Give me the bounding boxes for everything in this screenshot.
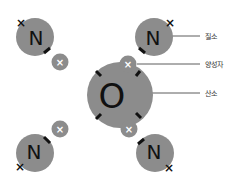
nitrogen-symbol: N [146, 26, 161, 50]
electron-mark-icon: × [16, 16, 26, 30]
molecule-diagram: O × × × × N × N × N × [0, 0, 242, 186]
electron-mark-icon: × [165, 16, 175, 30]
proton-mark-icon: × [125, 124, 133, 135]
nitrogen-atom-top-left: N × [16, 16, 54, 56]
nitrogen-atom-top-right: N × [135, 16, 175, 56]
proton-mark-icon: × [56, 124, 64, 135]
proton-mark-icon: × [56, 57, 64, 68]
oxygen-atom: O [87, 62, 153, 128]
nitrogen-symbol: N [147, 140, 162, 164]
label-oxygen: 산소 [205, 89, 218, 98]
nitrogen-symbol: N [29, 26, 44, 50]
electron-mark-icon: × [15, 160, 25, 174]
proton-bottom-right: × [121, 121, 138, 138]
nitrogen-atom-bottom-right: N × [136, 134, 174, 175]
nitrogen-symbol: N [27, 140, 42, 164]
electron-mark-icon: × [164, 161, 174, 175]
label-proton: 양성자 [205, 60, 224, 69]
proton-mark-icon: × [124, 59, 132, 70]
oxygen-symbol: O [99, 76, 126, 116]
proton-bottom-left: × [52, 121, 69, 138]
nitrogen-atom-bottom-left: N × [15, 134, 54, 174]
label-nitrogen: 질소 [205, 33, 218, 41]
proton-top-right: × [120, 56, 137, 73]
proton-top-left: × [52, 54, 69, 71]
